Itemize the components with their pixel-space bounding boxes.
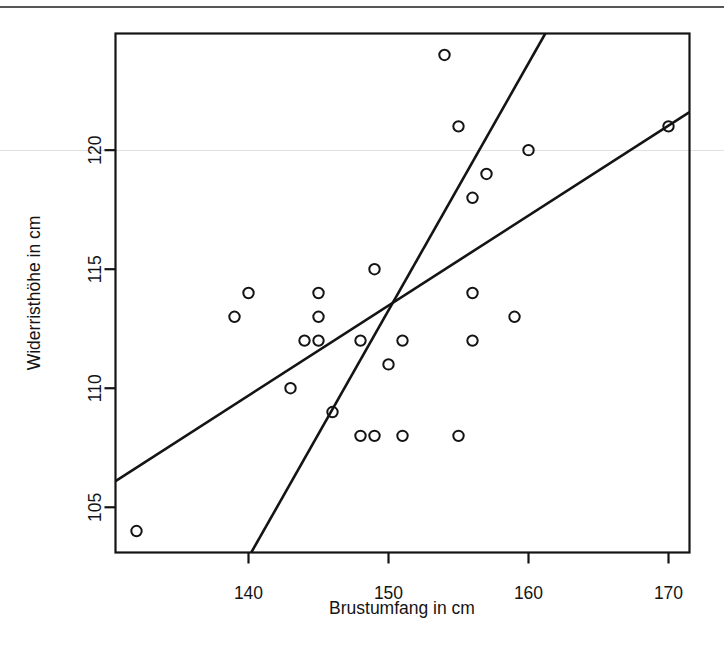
data-point <box>243 288 253 298</box>
data-point <box>131 526 141 536</box>
y-axis-title: Widerristhöhe in cm <box>24 216 44 371</box>
data-point <box>397 335 407 345</box>
y-axis-tick-label: 115 <box>85 255 105 283</box>
x-axis-ticks <box>249 553 669 564</box>
data-point <box>467 288 477 298</box>
data-point <box>397 431 407 441</box>
data-point <box>313 288 323 298</box>
x-axis-tick-label: 140 <box>234 583 263 603</box>
y-axis-tick-labels: 105110115120 <box>85 135 105 522</box>
data-point <box>453 431 463 441</box>
data-point <box>299 335 309 345</box>
x-axis-tick-label: 160 <box>514 583 543 603</box>
y-axis-tick-label: 110 <box>85 374 105 402</box>
data-point <box>355 335 365 345</box>
data-point <box>369 264 379 274</box>
data-point <box>355 431 365 441</box>
y-axis-ticks <box>105 150 116 507</box>
scatterplot-figure: 105110115120 140150160170 Brustumfang in… <box>0 0 724 656</box>
shallow-regression-line <box>116 112 690 481</box>
x-axis-title: Brustumfang in cm <box>329 598 475 618</box>
data-point <box>369 431 379 441</box>
data-point <box>383 359 393 369</box>
data-point <box>439 50 449 60</box>
plot-panel-border <box>116 34 690 553</box>
data-point <box>481 169 491 179</box>
data-points <box>131 50 673 537</box>
data-point <box>509 312 519 322</box>
regression-lines <box>116 34 690 553</box>
data-point <box>523 145 533 155</box>
data-point <box>285 383 295 393</box>
data-point <box>467 193 477 203</box>
y-axis-tick-label: 120 <box>85 135 105 164</box>
data-point <box>467 335 477 345</box>
data-point <box>229 312 239 322</box>
y-axis-tick-label: 105 <box>85 493 105 522</box>
data-point <box>313 312 323 322</box>
x-axis-tick-label: 170 <box>654 583 683 603</box>
plot-svg: 105110115120 140150160170 Brustumfang in… <box>0 0 724 656</box>
page-canvas: 105110115120 140150160170 Brustumfang in… <box>0 0 724 656</box>
steep-regression-line <box>251 34 545 553</box>
data-point <box>453 121 463 131</box>
data-point <box>313 335 323 345</box>
